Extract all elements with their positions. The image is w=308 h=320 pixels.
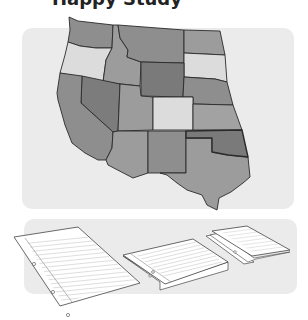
punch-hole [32, 262, 35, 265]
punch-hole [152, 271, 155, 274]
punch-hole [149, 275, 151, 277]
notebooks-illustration [0, 0, 308, 320]
punch-hole [66, 313, 69, 316]
punch-hole [51, 290, 54, 293]
punch-hole [234, 251, 237, 254]
